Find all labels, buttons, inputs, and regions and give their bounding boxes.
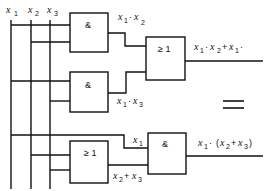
or-gate-2-symbol: ≥ 1	[84, 148, 96, 158]
svg-text:·: ·	[209, 138, 212, 148]
or2-output-label: x2 + x3	[112, 170, 142, 183]
svg-text:x: x	[27, 4, 33, 15]
input-label-x2: x 2	[27, 4, 39, 17]
wire-and1-or1	[108, 33, 146, 46]
svg-text:x: x	[228, 41, 234, 52]
svg-text:x: x	[131, 170, 137, 181]
and-gate-2-symbol: &	[85, 80, 91, 90]
bottom-x1-label: x1	[132, 134, 143, 147]
and-gate-2	[70, 72, 108, 112]
svg-text:x: x	[116, 95, 122, 106]
svg-text:(: (	[216, 138, 219, 148]
svg-text:3: 3	[139, 101, 143, 108]
svg-text:2: 2	[141, 19, 145, 26]
svg-text:1: 1	[124, 17, 128, 24]
svg-text:x: x	[133, 11, 139, 22]
svg-text:x: x	[132, 95, 138, 106]
svg-text:·: ·	[128, 96, 131, 106]
svg-text:3: 3	[244, 143, 248, 150]
or-gate-1-symbol: ≥ 1	[158, 44, 170, 54]
and-gate-1-symbol: &	[85, 20, 91, 30]
svg-text:+: +	[124, 171, 129, 181]
input-label-x3: x 3	[46, 4, 58, 17]
svg-text:1: 1	[123, 101, 127, 108]
svg-text:+: +	[222, 42, 227, 52]
svg-text:2: 2	[226, 143, 230, 150]
svg-text:1: 1	[14, 10, 18, 17]
svg-text:·: ·	[205, 42, 208, 52]
input-label-x1: x 1	[5, 4, 18, 17]
or1-output-label: x1 · x2 + x1 ·	[193, 41, 243, 54]
svg-text:·: ·	[129, 12, 132, 22]
svg-text:+: +	[231, 138, 236, 148]
svg-text:x: x	[209, 41, 215, 52]
and3-output-label: x1 · ( x2 + x3 )	[197, 137, 252, 150]
svg-text:2: 2	[35, 10, 39, 17]
equivalence-sign	[223, 101, 244, 108]
svg-text:): )	[249, 138, 252, 148]
svg-text:1: 1	[235, 47, 239, 54]
svg-text:x: x	[112, 170, 118, 181]
logic-diagram: x 1 x 2 x 3 & x1 · x2 & x1 · x3 ≥ 1 x1 ·…	[0, 0, 268, 191]
svg-text:1: 1	[200, 47, 204, 54]
svg-text:x: x	[193, 41, 199, 52]
svg-text:x: x	[5, 4, 11, 15]
svg-text:x: x	[237, 137, 243, 148]
svg-text:x: x	[46, 4, 52, 15]
svg-text:x: x	[132, 134, 138, 145]
wire-and2-or1	[108, 72, 146, 93]
svg-text:x: x	[197, 137, 203, 148]
svg-text:1: 1	[204, 143, 208, 150]
and1-output-label: x1 · x2	[117, 11, 145, 26]
and2-output-label: x1 · x3	[116, 95, 143, 108]
svg-text:3: 3	[54, 10, 58, 17]
svg-text:3: 3	[138, 176, 142, 183]
svg-text:2: 2	[119, 176, 123, 183]
svg-text:1: 1	[139, 140, 143, 147]
and-gate-3-symbol: &	[162, 139, 168, 149]
svg-text:x: x	[219, 137, 225, 148]
svg-text:·: ·	[240, 42, 243, 52]
svg-text:2: 2	[217, 47, 221, 54]
and-gate-1	[70, 13, 108, 52]
svg-text:x: x	[117, 11, 123, 22]
